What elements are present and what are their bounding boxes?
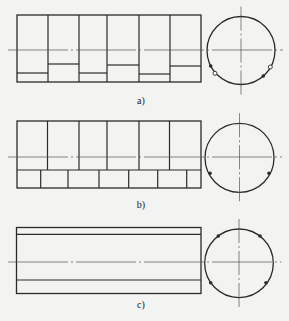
panel-a-label: a) (137, 95, 145, 106)
filled-point-marker (264, 281, 268, 285)
filled-point-marker (258, 234, 262, 238)
filled-point-marker (209, 64, 213, 68)
filled-point-marker (208, 172, 212, 176)
bearing-diagram (0, 0, 289, 321)
filled-point-marker (217, 234, 221, 238)
figure: a) b) c) (0, 0, 289, 321)
filled-point-marker (209, 281, 213, 285)
panel-a-side-view (17, 15, 201, 82)
filled-point-marker (267, 172, 271, 176)
open-point-marker (268, 65, 272, 69)
panel-b-label: b) (137, 199, 145, 210)
filled-point-marker (262, 74, 266, 78)
panel-c-side-view (17, 228, 202, 294)
open-point-marker (213, 71, 217, 75)
panel-c-label: c) (137, 299, 145, 310)
panel-b-side-view (17, 121, 201, 188)
